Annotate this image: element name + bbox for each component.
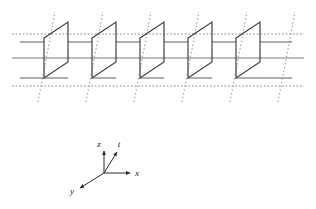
canvas-background	[0, 0, 316, 209]
axis-label-x: x	[134, 168, 139, 178]
figure-container: z t x y	[0, 0, 316, 209]
axis-label-z: z	[96, 139, 101, 149]
lattice-planes-diagram: z t x y	[0, 0, 316, 209]
axis-label-y: y	[69, 186, 74, 196]
